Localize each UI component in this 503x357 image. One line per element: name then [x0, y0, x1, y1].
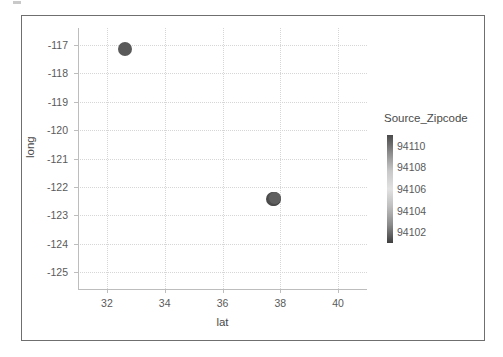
y-tick-label: -119 — [0, 96, 68, 108]
x-tick-mark — [223, 289, 224, 293]
y-tick-mark — [74, 215, 78, 216]
x-tick-mark — [280, 289, 281, 293]
gridline-horizontal — [78, 187, 367, 188]
gridline-horizontal — [78, 272, 367, 273]
y-axis-title: long — [24, 136, 36, 158]
y-tick-label: -118 — [0, 67, 68, 79]
colorbar-strip — [387, 135, 393, 243]
gridline-horizontal — [78, 215, 367, 216]
y-tick-mark — [74, 159, 78, 160]
gridline-horizontal — [78, 102, 367, 103]
colorbar-tick-label: 94108 — [397, 161, 426, 173]
crop-artifact — [13, 1, 21, 4]
x-tick-label: 34 — [159, 297, 171, 309]
x-tick-mark — [338, 289, 339, 293]
data-point — [118, 42, 132, 56]
y-axis-line — [78, 28, 79, 289]
x-tick-label: 32 — [101, 297, 113, 309]
y-tick-label: -120 — [0, 124, 68, 136]
figure-frame — [21, 15, 485, 341]
colorbar-tick-label: 94102 — [397, 226, 426, 238]
y-tick-mark — [74, 244, 78, 245]
y-tick-label: -124 — [0, 238, 68, 250]
colorbar-title: Source_Zipcode — [384, 112, 468, 124]
y-tick-label: -122 — [0, 181, 68, 193]
y-tick-mark — [74, 130, 78, 131]
y-tick-label: -117 — [0, 39, 68, 51]
colorbar-tick-label: 94106 — [397, 183, 426, 195]
x-tick-mark — [107, 289, 108, 293]
colorbar-tick-label: 94104 — [397, 205, 426, 217]
y-tick-label: -125 — [0, 266, 68, 278]
x-tick-label: 40 — [332, 297, 344, 309]
gridline-horizontal — [78, 244, 367, 245]
gridline-horizontal — [78, 159, 367, 160]
gridline-horizontal — [78, 130, 367, 131]
y-tick-mark — [74, 45, 78, 46]
x-tick-mark — [165, 289, 166, 293]
y-tick-label: -123 — [0, 209, 68, 221]
y-tick-mark — [74, 102, 78, 103]
y-tick-mark — [74, 187, 78, 188]
data-point — [269, 192, 281, 204]
colorbar-tick-label: 94110 — [397, 140, 425, 152]
x-tick-label: 36 — [217, 297, 229, 309]
gridline-horizontal — [78, 73, 367, 74]
y-tick-mark — [74, 73, 78, 74]
x-axis-title: lat — [78, 316, 367, 328]
x-tick-label: 38 — [274, 297, 286, 309]
y-tick-mark — [74, 272, 78, 273]
